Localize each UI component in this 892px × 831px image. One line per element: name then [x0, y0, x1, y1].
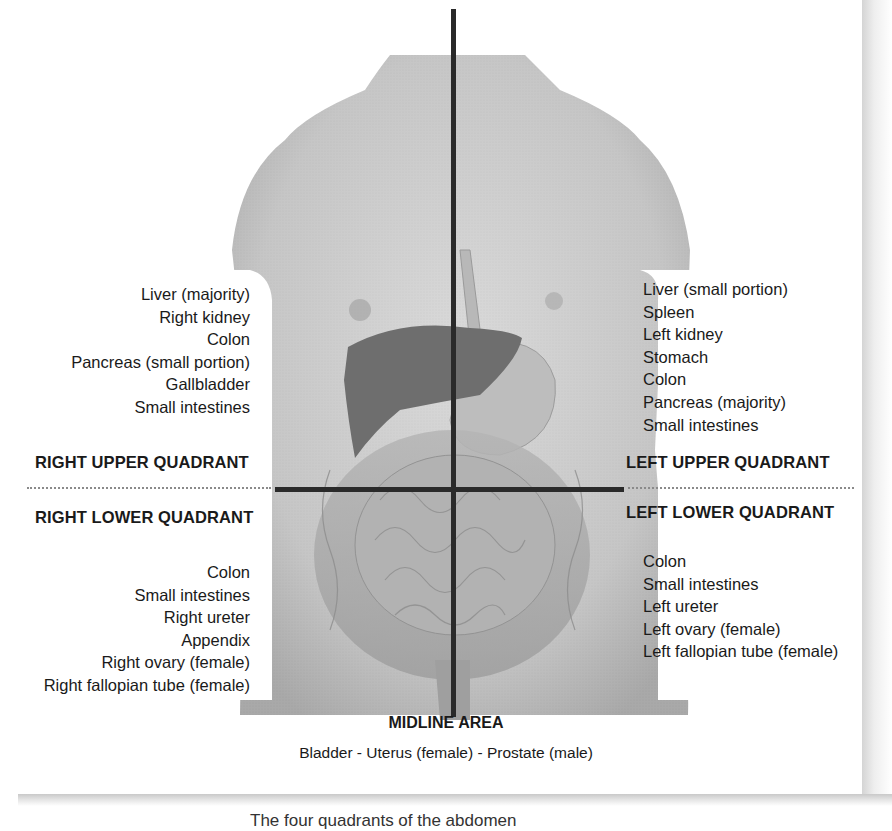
right-lower-organ-list: Colon Small intestines Right ureter Appe… [0, 561, 250, 697]
organ-item: Spleen [643, 301, 873, 324]
right-nipple [349, 299, 371, 321]
right-lower-quadrant-title: RIGHT LOWER QUADRANT [35, 508, 253, 527]
organ-item: Small intestines [643, 414, 873, 437]
organ-item: Left ovary (female) [643, 618, 873, 641]
left-upper-quadrant-title: LEFT UPPER QUADRANT [626, 453, 830, 472]
right-divider-line [27, 487, 271, 489]
organ-item: Right ureter [0, 606, 250, 629]
organ-item: Pancreas (majority) [643, 391, 873, 414]
midline-area-organs: Bladder - Uterus (female) - Prostate (ma… [0, 744, 892, 762]
organ-item: Liver (majority) [0, 283, 250, 306]
left-divider-line [628, 487, 854, 489]
organ-item: Colon [0, 561, 250, 584]
vertical-axis-line [451, 9, 456, 717]
organ-item: Small intestines [643, 573, 873, 596]
organ-item: Left kidney [643, 323, 873, 346]
organ-item: Colon [643, 550, 873, 573]
organ-item: Right fallopian tube (female) [0, 674, 250, 697]
organ-item: Small intestines [0, 584, 250, 607]
right-upper-quadrant-title: RIGHT UPPER QUADRANT [35, 453, 249, 472]
organ-item: Left fallopian tube (female) [643, 640, 873, 663]
organ-item: Left ureter [643, 595, 873, 618]
organ-item: Pancreas (small portion) [0, 351, 250, 374]
organ-item: Small intestines [0, 396, 250, 419]
figure-caption: The four quadrants of the abdomen [250, 811, 517, 831]
right-upper-organ-list: Liver (majority) Right kidney Colon Panc… [0, 283, 250, 419]
midline-area-title: MIDLINE AREA [0, 714, 892, 732]
organ-item: Right kidney [0, 306, 250, 329]
organ-item: Colon [0, 328, 250, 351]
left-lower-quadrant-title: LEFT LOWER QUADRANT [626, 503, 834, 522]
organ-item: Appendix [0, 629, 250, 652]
organ-item: Right ovary (female) [0, 651, 250, 674]
horizontal-axis-line [275, 487, 624, 492]
organ-item: Liver (small portion) [643, 278, 873, 301]
organ-item: Gallbladder [0, 373, 250, 396]
organ-item: Stomach [643, 346, 873, 369]
left-lower-organ-list: Colon Small intestines Left ureter Left … [643, 550, 873, 663]
left-upper-organ-list: Liver (small portion) Spleen Left kidney… [643, 278, 873, 436]
organ-item: Colon [643, 368, 873, 391]
left-nipple [545, 292, 563, 310]
